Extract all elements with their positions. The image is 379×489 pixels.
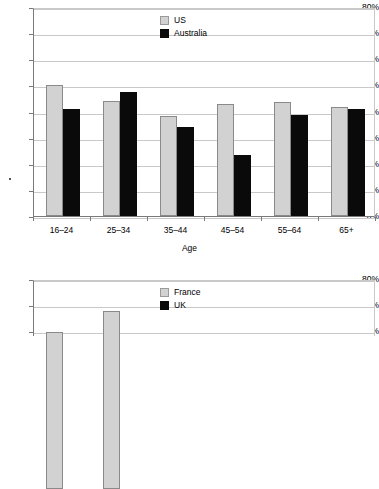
bar-us-0 bbox=[46, 85, 63, 216]
gridline bbox=[34, 281, 374, 282]
x-axis-tick-label: 65+ bbox=[318, 225, 375, 235]
x-axis-tick-label: 35–44 bbox=[147, 225, 204, 235]
x-axis-tick-label: 16–24 bbox=[33, 225, 90, 235]
legend-label: France bbox=[174, 288, 200, 297]
legend-swatch-icon bbox=[160, 29, 169, 38]
gridline bbox=[34, 140, 374, 141]
bar-chart-france-uk: 80%70%60% FranceUK bbox=[0, 272, 379, 336]
x-axis-tick-mark bbox=[318, 217, 319, 221]
bar-france-0 bbox=[46, 332, 63, 489]
gridline bbox=[34, 333, 374, 334]
legend-swatch-icon bbox=[160, 301, 169, 310]
x-axis-tick-label: 55–64 bbox=[261, 225, 318, 235]
bar-australia-2 bbox=[177, 127, 194, 216]
gridline bbox=[34, 166, 374, 167]
legend-label: US bbox=[174, 16, 186, 25]
x-axis-tick-label: 25–34 bbox=[90, 225, 147, 235]
gridline bbox=[34, 61, 374, 62]
bar-us-5 bbox=[331, 107, 348, 216]
legend-item-uk: UK bbox=[160, 299, 200, 312]
x-axis-tick-mark bbox=[90, 217, 91, 221]
legend: FranceUK bbox=[160, 286, 200, 312]
legend-item-us: US bbox=[160, 14, 207, 27]
gridline bbox=[34, 192, 374, 193]
bar-australia-3 bbox=[234, 155, 251, 216]
bar-us-3 bbox=[217, 104, 234, 216]
gridline bbox=[34, 114, 374, 115]
bar-australia-0 bbox=[63, 109, 80, 216]
gridline bbox=[34, 87, 374, 88]
stray-dot-artifact bbox=[9, 178, 11, 180]
x-axis-tick-mark bbox=[261, 217, 262, 221]
legend-item-australia: Australia bbox=[160, 27, 207, 40]
legend-label: Australia bbox=[174, 29, 207, 38]
legend-swatch-icon bbox=[160, 16, 169, 25]
x-axis-tick-mark bbox=[33, 217, 34, 221]
gridline bbox=[34, 307, 374, 308]
bar-australia-1 bbox=[120, 92, 137, 216]
x-axis-title: Age bbox=[0, 243, 379, 253]
gridline bbox=[34, 9, 374, 10]
bar-chart-us-australia: 80%70%60%50%40%30%20%10%0% 16–2425–3435–… bbox=[0, 0, 379, 260]
x-axis-tick-label: 45–54 bbox=[204, 225, 261, 235]
x-axis-tick-mark bbox=[375, 217, 376, 221]
bar-us-2 bbox=[160, 116, 177, 216]
legend-label: UK bbox=[174, 301, 186, 310]
legend-swatch-icon bbox=[160, 288, 169, 297]
bar-us-4 bbox=[274, 102, 291, 216]
x-axis-tick-mark bbox=[204, 217, 205, 221]
legend-item-france: France bbox=[160, 286, 200, 299]
bar-australia-5 bbox=[348, 109, 365, 216]
bar-australia-4 bbox=[291, 115, 308, 216]
plot-area bbox=[33, 280, 375, 336]
bar-us-1 bbox=[103, 101, 120, 216]
bar-france-1 bbox=[103, 311, 120, 489]
legend: USAustralia bbox=[160, 14, 207, 40]
x-axis-tick-mark bbox=[147, 217, 148, 221]
